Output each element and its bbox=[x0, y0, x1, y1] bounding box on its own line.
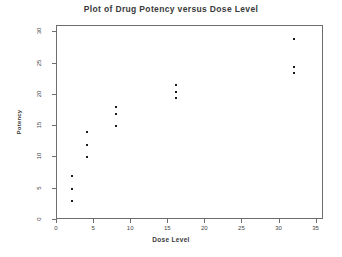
y-tick-mark bbox=[52, 125, 56, 126]
y-tick-mark bbox=[52, 188, 56, 189]
y-tick-label: 30 bbox=[36, 22, 42, 40]
x-tick-mark bbox=[241, 219, 242, 223]
y-tick-mark bbox=[52, 219, 56, 220]
x-tick-mark bbox=[204, 219, 205, 223]
x-tick-mark bbox=[316, 219, 317, 223]
data-point bbox=[293, 72, 295, 74]
data-point bbox=[175, 91, 177, 93]
data-point bbox=[71, 200, 73, 202]
x-tick-label: 10 bbox=[127, 225, 134, 231]
data-point bbox=[71, 188, 73, 190]
y-tick-label: 0 bbox=[36, 210, 42, 228]
data-point bbox=[86, 131, 88, 133]
y-tick-mark bbox=[52, 63, 56, 64]
x-tick-mark bbox=[130, 219, 131, 223]
x-axis-title: Dose Level bbox=[0, 236, 342, 243]
y-tick-label: 15 bbox=[36, 116, 42, 134]
x-tick-mark bbox=[56, 219, 57, 223]
y-tick-label: 5 bbox=[36, 179, 42, 197]
plot-area bbox=[56, 25, 323, 219]
data-point bbox=[293, 66, 295, 68]
x-tick-label: 5 bbox=[91, 225, 94, 231]
y-tick-label: 10 bbox=[36, 147, 42, 165]
data-point bbox=[86, 144, 88, 146]
data-point bbox=[175, 97, 177, 99]
data-point bbox=[71, 175, 73, 177]
y-tick-label: 25 bbox=[36, 54, 42, 72]
x-tick-mark bbox=[167, 219, 168, 223]
x-tick-label: 15 bbox=[164, 225, 171, 231]
x-tick-mark bbox=[93, 219, 94, 223]
data-point bbox=[175, 84, 177, 86]
data-point bbox=[115, 125, 117, 127]
y-tick-label: 20 bbox=[36, 85, 42, 103]
y-tick-mark bbox=[52, 156, 56, 157]
x-tick-label: 35 bbox=[312, 225, 319, 231]
data-point bbox=[115, 113, 117, 115]
data-point bbox=[293, 38, 295, 40]
y-tick-mark bbox=[52, 31, 56, 32]
y-axis-title: Potency bbox=[16, 110, 22, 135]
chart-title: Plot of Drug Potency versus Dose Level bbox=[0, 4, 342, 14]
x-tick-label: 0 bbox=[54, 225, 57, 231]
x-tick-mark bbox=[279, 219, 280, 223]
data-point bbox=[115, 106, 117, 108]
x-tick-label: 25 bbox=[238, 225, 245, 231]
x-tick-label: 30 bbox=[275, 225, 282, 231]
y-tick-mark bbox=[52, 94, 56, 95]
data-point bbox=[86, 156, 88, 158]
x-tick-label: 20 bbox=[201, 225, 208, 231]
scatter-plot-figure: Plot of Drug Potency versus Dose Level 0… bbox=[0, 0, 342, 257]
